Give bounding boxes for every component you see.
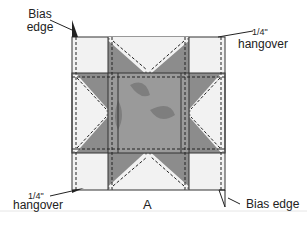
bias-edge-label-bottom: Bias edge	[246, 198, 299, 211]
bias-edge-label-top: Bias edge	[24, 8, 56, 34]
hangover-label-top: hangover	[238, 38, 288, 51]
block-label: A	[143, 198, 152, 211]
hangover-label-bottom: hangover	[13, 199, 63, 212]
